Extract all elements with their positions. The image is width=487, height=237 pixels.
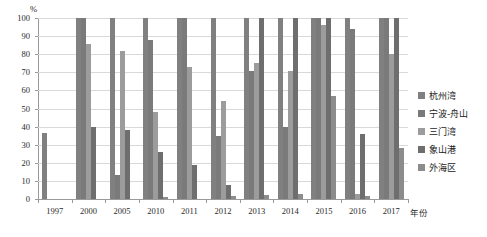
bar bbox=[231, 196, 236, 199]
legend-swatch-icon bbox=[418, 92, 425, 99]
x-axis-tick bbox=[240, 199, 241, 203]
legend-item[interactable]: 杭州湾 bbox=[418, 86, 486, 104]
bar bbox=[264, 195, 269, 199]
bar bbox=[125, 130, 130, 199]
y-axis-tick-label: 100 bbox=[0, 14, 30, 22]
y-axis-tick bbox=[35, 145, 38, 146]
legend-swatch-icon bbox=[418, 164, 425, 171]
y-axis-tick-label: 0 bbox=[0, 195, 30, 203]
x-axis-tick bbox=[72, 199, 73, 203]
bar bbox=[158, 152, 163, 199]
legend-swatch-icon bbox=[418, 128, 425, 135]
legend-swatch-icon bbox=[418, 146, 425, 153]
x-axis-tick bbox=[273, 199, 274, 203]
x-axis-tick bbox=[139, 199, 140, 203]
legend-item-label: 三门湾 bbox=[429, 125, 456, 138]
x-axis-tick bbox=[105, 199, 106, 203]
y-axis-tick bbox=[35, 127, 38, 128]
x-axis-tick bbox=[374, 199, 375, 203]
y-axis-tick-label: 10 bbox=[0, 177, 30, 185]
x-axis-tick bbox=[38, 199, 39, 203]
y-axis-tick bbox=[35, 18, 38, 19]
y-axis-tick bbox=[35, 54, 38, 55]
y-axis-unit-label: % bbox=[30, 4, 37, 14]
y-axis-tick-label: 50 bbox=[0, 105, 30, 113]
y-axis-tick-label: 40 bbox=[0, 123, 30, 131]
legend-item-label: 杭州湾 bbox=[429, 89, 456, 102]
bar bbox=[331, 96, 336, 199]
bar bbox=[293, 18, 298, 199]
bar bbox=[365, 196, 370, 199]
y-axis-tick bbox=[35, 181, 38, 182]
y-axis-tick bbox=[35, 90, 38, 91]
legend-item[interactable]: 象山港 bbox=[418, 140, 486, 158]
legend-item-label: 外海区 bbox=[429, 161, 456, 174]
y-axis-tick bbox=[35, 163, 38, 164]
plot-area bbox=[38, 18, 408, 199]
y-axis-tick-label: 80 bbox=[0, 50, 30, 58]
bar bbox=[91, 127, 96, 199]
x-axis-tick bbox=[206, 199, 207, 203]
y-axis-tick-label: 70 bbox=[0, 68, 30, 76]
legend-item[interactable]: 三门湾 bbox=[418, 122, 486, 140]
bar bbox=[350, 29, 355, 199]
bars-layer bbox=[38, 18, 408, 199]
x-axis-tick bbox=[173, 199, 174, 203]
x-axis-tick bbox=[307, 199, 308, 203]
x-axis-tick-label: 2017 bbox=[371, 206, 411, 216]
x-axis-tick bbox=[408, 199, 409, 203]
legend-swatch-icon bbox=[418, 110, 425, 117]
x-axis-tick bbox=[341, 199, 342, 203]
y-axis-tick bbox=[35, 109, 38, 110]
y-axis-tick-label: 90 bbox=[0, 32, 30, 40]
legend-item-label: 象山港 bbox=[429, 143, 456, 156]
y-axis-tick-label: 30 bbox=[0, 141, 30, 149]
y-axis-tick bbox=[35, 36, 38, 37]
bar-chart: % 0102030405060708090100 199720002005201… bbox=[0, 0, 487, 237]
bar bbox=[42, 133, 47, 199]
legend-item[interactable]: 外海区 bbox=[418, 158, 486, 176]
y-axis-tick-label: 60 bbox=[0, 86, 30, 94]
gridline bbox=[38, 199, 408, 200]
bar bbox=[298, 194, 303, 199]
legend-item[interactable]: 宁波-舟山 bbox=[418, 104, 486, 122]
y-axis-tick bbox=[35, 72, 38, 73]
bar bbox=[360, 134, 365, 199]
bar bbox=[399, 148, 404, 199]
legend-item-label: 宁波-舟山 bbox=[429, 107, 468, 120]
chart-legend: 杭州湾宁波-舟山三门湾象山港外海区 bbox=[418, 86, 486, 176]
bar bbox=[163, 197, 168, 199]
bar bbox=[110, 18, 115, 199]
bar bbox=[192, 165, 197, 199]
x-axis-title: 年份 bbox=[410, 206, 428, 218]
y-axis-tick-label: 20 bbox=[0, 159, 30, 167]
bar bbox=[259, 18, 264, 199]
